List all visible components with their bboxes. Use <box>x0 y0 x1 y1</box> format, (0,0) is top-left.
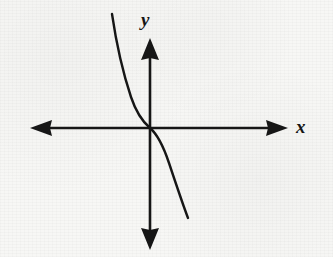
x-axis-left-arrowhead <box>30 120 52 136</box>
graph-figure: y x <box>0 0 333 257</box>
y-axis-label: y <box>141 10 149 29</box>
x-axis-label: x <box>296 117 306 136</box>
coordinate-plane-svg <box>0 0 333 257</box>
x-axis-right-arrowhead <box>266 120 288 136</box>
y-axis-bottom-arrowhead <box>141 228 159 250</box>
y-axis-top-arrowhead <box>141 38 159 60</box>
